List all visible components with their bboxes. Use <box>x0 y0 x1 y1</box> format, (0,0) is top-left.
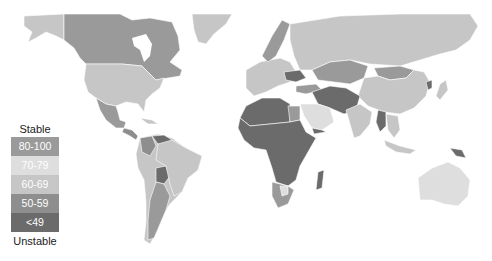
region-papua-new-guinea <box>450 148 466 158</box>
legend-item-under-49: <49 <box>11 213 59 232</box>
region-sub-saharan-africa <box>238 118 316 186</box>
region-india <box>346 104 372 138</box>
legend-item-50-59: 50-59 <box>11 194 59 213</box>
region-myanmar <box>376 110 386 132</box>
region-russia <box>290 14 478 70</box>
region-madagascar <box>316 170 324 190</box>
region-japan <box>436 80 448 100</box>
legend-item-80-100: 80-100 <box>11 137 59 156</box>
map-legend: Stable 80-100 70-79 60-69 50-59 <49 Unst… <box>8 122 62 247</box>
region-egypt <box>288 106 300 122</box>
region-alaska <box>24 14 64 42</box>
region-scandinavia <box>262 20 290 62</box>
region-greenland <box>192 14 232 44</box>
legend-item-70-79: 70-79 <box>11 156 59 175</box>
region-ukraine <box>284 70 306 82</box>
region-indonesia <box>384 140 416 154</box>
region-caribbean <box>140 118 158 124</box>
region-north-africa <box>240 98 290 126</box>
region-australia <box>418 162 470 206</box>
region-southeast-asia <box>386 114 400 138</box>
legend-unstable-label: Unstable <box>8 235 62 247</box>
legend-stable-label: Stable <box>8 122 62 137</box>
world-map <box>0 0 492 261</box>
region-arabia <box>300 104 334 130</box>
legend-item-60-69: 60-69 <box>11 175 59 194</box>
region-central-america <box>122 128 138 140</box>
